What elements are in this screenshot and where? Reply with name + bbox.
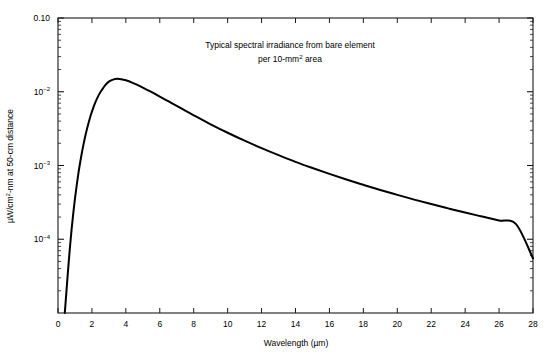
y-tick-exponent: −3 <box>43 160 51 166</box>
x-tick-label: 10 <box>223 319 233 329</box>
y-axis-tick-labels: 0.1010−210−310−4 <box>33 13 50 244</box>
annotation-line-1: Typical spectral irradiance from bare el… <box>205 40 375 50</box>
x-tick-label: 24 <box>460 319 470 329</box>
y-axis-title: µW/cm2-nm at 50-cm distance <box>5 109 16 223</box>
annotation-line-2-post: area <box>303 54 323 64</box>
x-tick-label: 2 <box>90 319 95 329</box>
y-axis-title-pre: µW/cm <box>5 196 15 223</box>
x-tick-label: 26 <box>494 319 504 329</box>
spectral-irradiance-chart: 0246810121416182022242628 0.1010−210−310… <box>0 0 547 357</box>
x-tick-label: 6 <box>157 319 162 329</box>
x-tick-label: 20 <box>393 319 403 329</box>
data-series-group <box>65 79 533 313</box>
x-tick-label: 8 <box>191 319 196 329</box>
y-tick-mantissa: 10 <box>34 161 44 171</box>
annotation-line-2-pre: per 10-mm <box>258 54 299 64</box>
x-tick-label: 0 <box>56 319 61 329</box>
x-tick-label: 18 <box>359 319 369 329</box>
x-tick-label: 4 <box>123 319 128 329</box>
x-tick-label: 12 <box>257 319 267 329</box>
x-tick-label: 28 <box>528 319 538 329</box>
y-tick-exponent: −2 <box>43 86 51 92</box>
y-tick-mantissa: 10 <box>34 234 44 244</box>
figure-container: 0246810121416182022242628 0.1010−210−310… <box>0 0 547 357</box>
y-tick-label: 0.10 <box>33 13 50 23</box>
y-tick-exponent: −4 <box>43 234 51 240</box>
chart-annotation: Typical spectral irradiance from bare el… <box>205 40 375 64</box>
x-tick-label: 14 <box>291 319 301 329</box>
x-axis-title: Wavelength (µm) <box>264 338 329 348</box>
x-tick-label: 16 <box>325 319 335 329</box>
spectral-irradiance-curve <box>65 79 533 313</box>
y-tick-label: 10−2 <box>34 86 51 97</box>
x-axis-tick-labels: 0246810121416182022242628 <box>56 319 538 329</box>
x-tick-label: 22 <box>426 319 436 329</box>
y-tick-mantissa: 10 <box>34 87 44 97</box>
y-axis-title-post: -nm at 50-cm distance <box>5 109 15 193</box>
y-tick-label: 10−4 <box>34 234 51 245</box>
y-tick-label: 10−3 <box>34 160 51 171</box>
annotation-line-2: per 10-mm2 area <box>258 54 322 65</box>
